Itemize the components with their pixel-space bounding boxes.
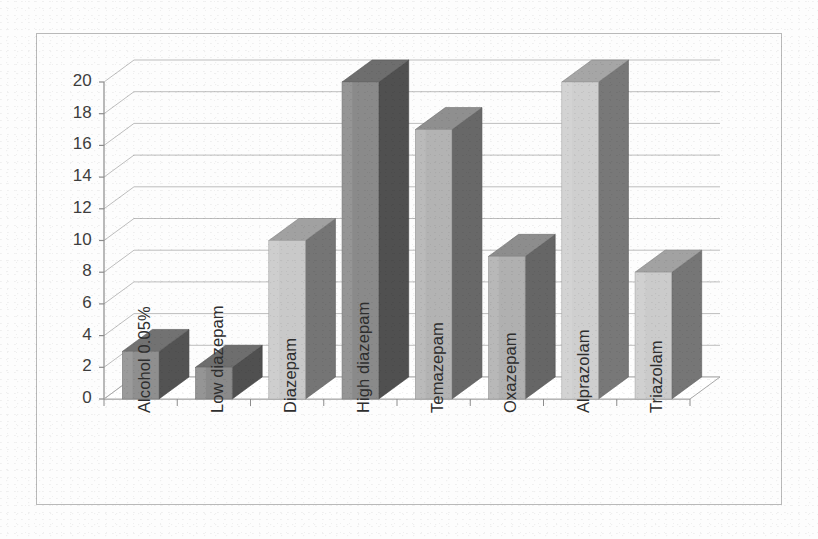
bar-side-face — [379, 60, 409, 399]
grid-depth-connector — [104, 155, 134, 177]
bar-4 — [342, 60, 409, 399]
bar-side-face — [672, 250, 702, 399]
y-tick-label: 14 — [52, 166, 92, 186]
grid-depth-connector — [104, 92, 134, 114]
x-category-label: Alcohol 0.05% — [135, 306, 154, 413]
grid-depth-connector — [104, 314, 134, 336]
x-category-label: Oxazepam — [501, 332, 520, 413]
bar-sheen — [635, 272, 645, 399]
y-tick-label: 10 — [52, 230, 92, 250]
grid-depth-connector — [104, 187, 134, 209]
grid-depth-connector — [104, 219, 134, 241]
bar-chart-plot — [0, 0, 818, 539]
y-tick-label: 12 — [52, 198, 92, 218]
bar-sheen — [415, 130, 425, 399]
y-tick-label: 6 — [52, 293, 92, 313]
x-category-label: Temazepam — [428, 322, 447, 413]
grid-depth-connector — [104, 123, 134, 145]
bar-side-face — [598, 60, 628, 399]
bar-side-face — [452, 108, 482, 399]
y-tick-label: 16 — [52, 134, 92, 154]
bar-sheen — [342, 82, 352, 399]
grid-depth-connector — [104, 282, 134, 304]
grid-depth-connector — [104, 250, 134, 272]
bar-side-face — [525, 234, 555, 399]
x-category-label: Low diazepam — [208, 305, 227, 413]
bar-5 — [415, 108, 482, 399]
bar-3 — [269, 219, 336, 400]
bar-sheen — [122, 351, 132, 399]
x-category-label: Triazolam — [647, 340, 666, 413]
bar-6 — [489, 234, 556, 399]
y-tick-label: 4 — [52, 325, 92, 345]
bar-8 — [635, 250, 702, 399]
bar-sheen — [196, 367, 206, 399]
bar-sheen — [269, 241, 279, 400]
chart-page: 02468101214161820 Alcohol 0.05%Low diaze… — [0, 0, 818, 539]
y-tick-label: 0 — [52, 388, 92, 408]
x-category-label: High diazepam — [354, 302, 373, 413]
y-tick-label: 20 — [52, 71, 92, 91]
y-tick-label: 8 — [52, 261, 92, 281]
bar-side-face — [305, 219, 335, 400]
x-category-label: Alprazolam — [574, 329, 593, 413]
y-tick-label: 18 — [52, 103, 92, 123]
bar-sheen — [562, 82, 572, 399]
bar-7 — [562, 60, 629, 399]
grid-depth-connector — [104, 60, 134, 82]
x-category-label: Diazepam — [281, 338, 300, 413]
bar-sheen — [489, 256, 499, 399]
y-tick-label: 2 — [52, 356, 92, 376]
